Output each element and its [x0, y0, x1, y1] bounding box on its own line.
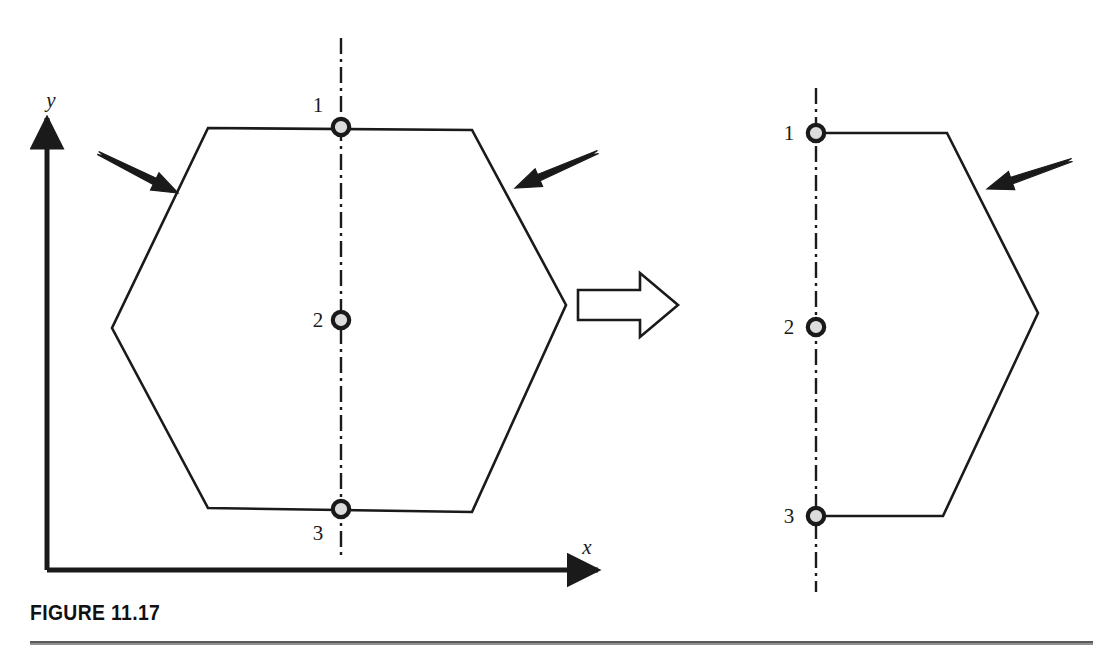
node-label-3: 3 [313, 521, 324, 545]
half-hexagon-outline [816, 133, 1038, 516]
left-node-markers: 123 [313, 93, 349, 545]
node-label-2: 2 [313, 308, 324, 332]
node-label-2: 2 [784, 315, 795, 339]
x-axis-label: x [581, 535, 592, 559]
right-hexagon-group: 123 [784, 88, 1073, 592]
node-marker [808, 319, 824, 335]
node-marker [333, 501, 349, 517]
y-axis-label: y [44, 88, 56, 112]
load-arrow-right-icon [987, 159, 1073, 190]
right-node-markers: 123 [784, 121, 824, 528]
figure-drawing: y x 123 123 [0, 0, 1097, 647]
load-arrow-left-icon [97, 152, 178, 193]
right-load-arrows [987, 159, 1073, 190]
block-arrow-icon [578, 273, 678, 337]
node-label-1: 1 [313, 93, 324, 117]
figure-caption: FIGURE 11.17 [30, 600, 160, 626]
node-marker [808, 125, 824, 141]
node-label-1: 1 [784, 121, 795, 145]
node-marker [333, 119, 349, 135]
figure-caption-block: FIGURE 11.17 [0, 598, 1097, 647]
node-marker [808, 508, 824, 524]
load-arrow-right-icon [515, 151, 599, 189]
left-load-arrows [97, 151, 598, 194]
figure-container: y x 123 123 FIGURE 11.17 [0, 0, 1097, 647]
left-hexagon-group: 123 [97, 38, 598, 560]
node-marker [333, 312, 349, 328]
caption-divider [30, 641, 1093, 645]
node-label-3: 3 [784, 504, 795, 528]
